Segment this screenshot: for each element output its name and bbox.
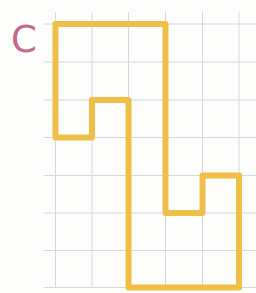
figure-canvas: C [0, 0, 256, 293]
geometry-figure-svg [0, 0, 256, 293]
shape-c-outline [56, 24, 240, 288]
figure-label-c: C [11, 21, 37, 58]
